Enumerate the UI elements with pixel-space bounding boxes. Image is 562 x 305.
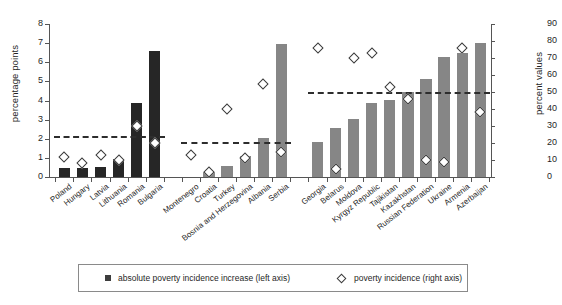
bar-hungary: [77, 168, 88, 177]
right-tick-mark: [491, 109, 495, 110]
legend-diamonds-label: poverty incidence (right axis): [354, 273, 462, 283]
marker-moldova: [348, 52, 359, 63]
right-tick-label: 0: [547, 172, 562, 181]
bar-tajikistan: [384, 100, 395, 177]
right-tick-label: 10: [547, 155, 562, 164]
marker-albania: [258, 78, 269, 89]
marker-hungary: [77, 158, 88, 169]
right-tick-label: 90: [547, 19, 562, 28]
marker-tajikistan: [384, 81, 395, 92]
right-tick-label: 20: [547, 138, 562, 147]
legend-item-diamonds: poverty incidence (right axis): [336, 273, 462, 283]
left-tick-mark: [45, 101, 49, 102]
right-tick-mark: [491, 75, 495, 76]
bar-moldova: [348, 119, 359, 177]
legend-bar-swatch-icon: [105, 275, 111, 281]
left-tick-label: 3: [13, 115, 43, 124]
bar-romania: [131, 103, 142, 177]
bar-georgia: [312, 142, 323, 177]
left-tick-mark: [45, 139, 49, 140]
left-tick-label: 0: [13, 172, 43, 181]
marker-latvia: [95, 149, 106, 160]
right-tick-label: 80: [547, 36, 562, 45]
left-tick-mark: [45, 158, 49, 159]
right-tick-label: 30: [547, 121, 562, 130]
left-tick-label: 8: [13, 19, 43, 28]
bar-armenia: [457, 53, 468, 177]
group-2-average: [181, 142, 291, 144]
right-axis-title: percent values: [533, 24, 544, 144]
marker-montenegro: [185, 149, 196, 160]
left-tick-mark: [45, 43, 49, 44]
marker-georgia: [312, 42, 323, 53]
right-tick-mark: [491, 160, 495, 161]
left-axis-line: [49, 24, 50, 178]
right-tick-mark: [491, 143, 495, 144]
right-tick-mark: [491, 92, 495, 93]
right-tick-label: 60: [547, 70, 562, 79]
x-axis-line: [49, 177, 492, 178]
right-axis-line: [491, 24, 492, 178]
marker-poland: [59, 151, 70, 162]
x-axis-labels: PolandHungaryLatviaLithuaniaRomaniaBulga…: [49, 180, 492, 240]
left-tick-mark: [45, 24, 49, 25]
bar-bulgaria: [149, 51, 160, 177]
bar-albania: [258, 138, 269, 177]
right-tick-label: 40: [547, 104, 562, 113]
left-tick-mark: [45, 120, 49, 121]
right-tick-label: 70: [547, 53, 562, 62]
bar-turkey: [221, 166, 232, 177]
legend-item-bars: absolute poverty incidence increase (lef…: [105, 273, 290, 283]
left-tick-mark: [45, 81, 49, 82]
legend-bars-label: absolute poverty incidence increase (lef…: [118, 273, 290, 283]
right-tick-mark: [491, 24, 495, 25]
left-tick-label: 4: [13, 96, 43, 105]
left-tick-label: 1: [13, 153, 43, 162]
marker-turkey: [221, 103, 232, 114]
marker-kyrgyz-republic: [366, 47, 377, 58]
left-tick-mark: [45, 177, 49, 178]
bar-poland: [59, 168, 70, 177]
right-tick-mark: [491, 177, 495, 178]
plot-area: 012345678 0102030405060708090: [49, 24, 492, 177]
left-tick-label: 5: [13, 76, 43, 85]
bar-kyrgyz-republic: [366, 103, 377, 177]
right-tick-mark: [491, 41, 495, 42]
right-tick-mark: [491, 58, 495, 59]
left-tick-mark: [45, 62, 49, 63]
chart-legend: absolute poverty incidence increase (lef…: [78, 264, 468, 292]
left-tick-label: 6: [13, 57, 43, 66]
bar-latvia: [95, 167, 106, 177]
left-tick-label: 2: [13, 134, 43, 143]
group-1-average: [54, 136, 164, 138]
legend-diamond-marker-icon: [337, 273, 347, 283]
group-3-average: [308, 92, 491, 94]
right-tick-label: 50: [547, 87, 562, 96]
x-label-serbia: Serbia: [267, 182, 291, 203]
left-tick-label: 7: [13, 38, 43, 47]
right-tick-mark: [491, 126, 495, 127]
